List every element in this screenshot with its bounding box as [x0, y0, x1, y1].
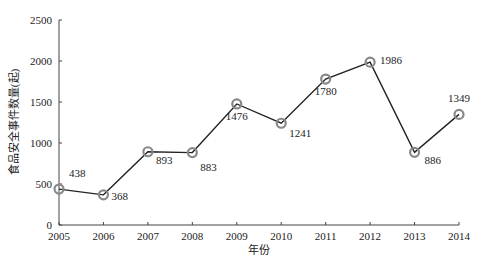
line-chart: 0500100015002000250020052006200720082009…: [0, 0, 482, 264]
x-tick-label: 2008: [181, 230, 204, 242]
data-label: 1476: [226, 110, 249, 122]
data-label: 1349: [448, 92, 471, 104]
y-tick-label: 1000: [30, 137, 53, 149]
x-tick-label: 2007: [137, 230, 160, 242]
data-label: 883: [200, 161, 217, 173]
series-polyline: [59, 62, 459, 195]
x-tick-label: 2010: [270, 230, 293, 242]
data-label: 1986: [380, 54, 403, 66]
data-label: 893: [156, 154, 173, 166]
data-label: 1780: [315, 85, 338, 97]
x-tick-label: 2013: [404, 230, 427, 242]
x-tick-label: 2006: [92, 230, 115, 242]
x-tick-label: 2014: [448, 230, 471, 242]
y-tick-label: 500: [36, 178, 53, 190]
y-tick-label: 2000: [30, 55, 53, 67]
data-label: 438: [69, 167, 86, 179]
data-labels: 43836889388314761241178019868861349: [69, 54, 471, 202]
y-tick-label: 1500: [30, 96, 53, 108]
data-label: 886: [425, 154, 442, 166]
x-tick-label: 2005: [48, 230, 71, 242]
x-tick-label: 2009: [226, 230, 249, 242]
data-label: 1241: [289, 127, 311, 139]
series-line: [55, 58, 464, 200]
x-tick-label: 2012: [359, 230, 381, 242]
x-axis-title: 年份: [248, 243, 270, 256]
y-tick-label: 2500: [30, 14, 53, 26]
x-tick-label: 2011: [315, 230, 337, 242]
axes: 0500100015002000250020052006200720082009…: [30, 14, 471, 242]
y-axis-title: 食品安全事件数量(起): [7, 69, 21, 176]
data-label: 368: [111, 190, 128, 202]
